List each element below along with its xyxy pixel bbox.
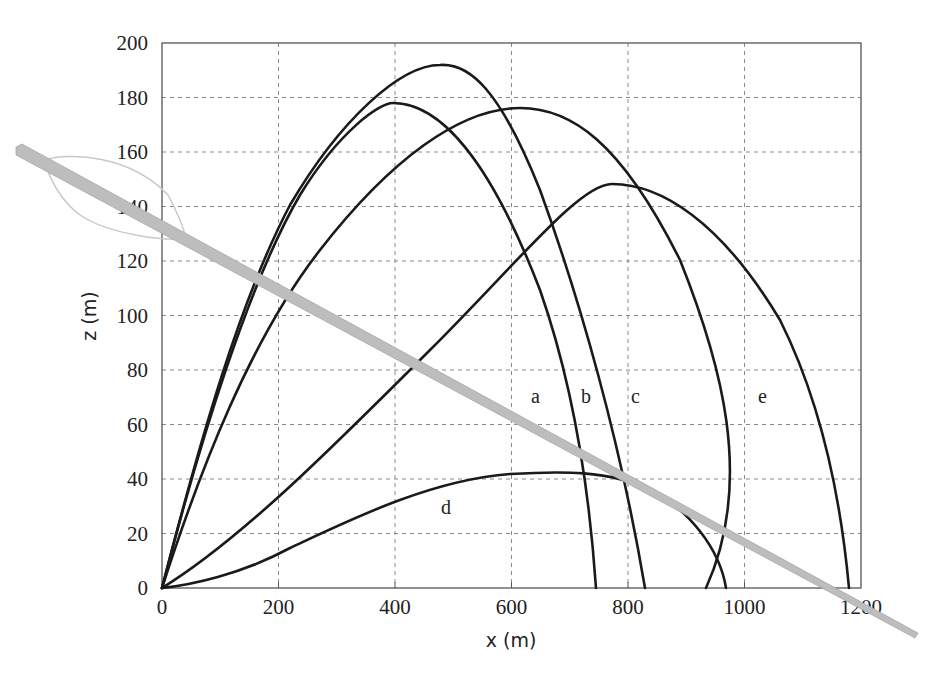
svg-text:e: e	[758, 385, 767, 407]
x-ticks	[279, 582, 745, 588]
svg-text:0: 0	[138, 576, 149, 600]
svg-text:20: 20	[127, 522, 148, 546]
x-tick-labels: 0 200 400 600 800 1000 1200	[157, 595, 882, 619]
svg-text:120: 120	[117, 249, 149, 273]
curve-b	[162, 65, 645, 588]
svg-text:100: 100	[117, 304, 149, 328]
svg-text:60: 60	[127, 413, 148, 437]
x-axis-title: x (m)	[486, 629, 537, 651]
blade-overlay	[16, 144, 918, 638]
svg-text:1000: 1000	[724, 595, 766, 619]
svg-text:80: 80	[127, 358, 148, 382]
svg-text:180: 180	[117, 86, 149, 110]
svg-text:200: 200	[263, 595, 295, 619]
blade-bar	[16, 144, 918, 638]
svg-text:200: 200	[117, 31, 149, 55]
svg-text:b: b	[581, 385, 591, 407]
svg-text:40: 40	[127, 467, 148, 491]
svg-text:d: d	[441, 496, 451, 518]
svg-text:800: 800	[612, 595, 644, 619]
svg-text:0: 0	[157, 595, 168, 619]
svg-text:160: 160	[117, 140, 149, 164]
trajectories	[162, 65, 849, 588]
trajectory-chart: 0 20 40 60 80 100 120 140 160 180 200 0 …	[0, 0, 927, 684]
svg-text:400: 400	[379, 595, 411, 619]
svg-text:c: c	[631, 385, 640, 407]
curve-e	[162, 184, 849, 588]
svg-text:600: 600	[496, 595, 528, 619]
svg-text:a: a	[531, 385, 540, 407]
y-tick-labels: 0 20 40 60 80 100 120 140 160 180 200	[117, 31, 149, 600]
y-axis-title: z (m)	[78, 291, 100, 340]
